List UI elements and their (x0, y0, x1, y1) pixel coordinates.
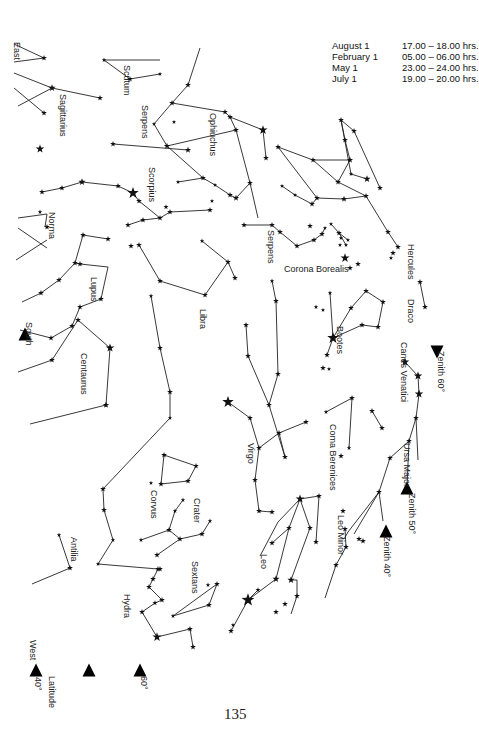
stars (36, 55, 428, 649)
label-sagittarius: Sagittarius (58, 94, 68, 137)
star-icon (185, 478, 191, 483)
constellation-line-hydra-lower (142, 569, 193, 647)
legend-row: July 1 19.00 – 20.00 hrs. (332, 73, 479, 84)
constellation-line-ophiuchus (167, 130, 236, 146)
star-icon (59, 185, 65, 190)
legend-row: February 1 05.00 – 06.00 hrs. (332, 51, 479, 62)
star-icon (324, 352, 330, 357)
label-hercules: Hercules (406, 244, 416, 280)
star-icon (150, 576, 156, 581)
legend-date: February 1 (332, 51, 402, 62)
star-icon (347, 446, 352, 450)
constellation-line-leo (272, 528, 289, 543)
star-icon (385, 229, 391, 234)
label-zenith-60: Zenith 60° (436, 351, 446, 392)
legend-time: 19.00 – 20.00 hrs. (402, 73, 479, 84)
star-icon (78, 178, 85, 185)
constellation-line-leo (260, 499, 300, 556)
star-icon (282, 601, 288, 606)
west-40-marker-icon (30, 664, 43, 677)
star-icon (338, 243, 342, 247)
star-icon (320, 365, 326, 370)
label-virgo: Virgo (246, 443, 256, 464)
label-latitude: Latitude (47, 676, 57, 708)
constellation-line-virgo-upper (272, 281, 278, 374)
star-icon (139, 609, 145, 614)
star-icon (67, 565, 73, 570)
star-icon (355, 261, 361, 266)
legend-row: May 1 23.00 – 24.00 hrs. (332, 62, 479, 73)
label-bootes: Bootes (335, 326, 345, 354)
label-east: East (12, 42, 22, 60)
constellation-line-leo (231, 600, 248, 631)
constellation-line-virgo-upper (246, 325, 278, 405)
star-icon (269, 509, 275, 514)
star-icon (307, 223, 313, 228)
star-icon (97, 95, 103, 100)
constellation-line-ursa-major (354, 492, 379, 534)
star-icon (48, 335, 54, 340)
label-leo: Leo (259, 554, 269, 569)
constellation-line-norma-lupus (75, 235, 108, 263)
constellation-line-hercules (282, 186, 317, 204)
star-icon (38, 210, 43, 214)
star-icon (227, 192, 233, 197)
star-icon (303, 419, 309, 424)
star-icon (115, 183, 121, 188)
constellation-line-ophiuchus (178, 178, 203, 182)
star-icon (369, 408, 375, 413)
constellation-line-serpens-caput (244, 225, 325, 246)
star-icon (321, 308, 325, 312)
star-icon (296, 495, 305, 503)
star-icon (48, 84, 55, 91)
constellation-line-scorpius (42, 182, 210, 218)
star-icon (110, 141, 116, 146)
star-icon (273, 609, 279, 614)
star-icon (139, 538, 144, 542)
star-icon (77, 304, 83, 309)
star-icon (231, 623, 235, 627)
star-icon (247, 415, 253, 420)
star-icon (210, 199, 214, 203)
label-zenith-50: Zenith 50° (407, 493, 417, 534)
star-icon (199, 531, 205, 536)
constellation-line-ophiuchus (230, 117, 250, 183)
star-icon (38, 290, 44, 295)
star-icon (207, 207, 213, 212)
star-icon (103, 402, 109, 407)
star-icon (185, 147, 191, 153)
star-icon (136, 242, 142, 247)
star-icon (36, 145, 45, 153)
legend-time: 23.00 – 24.00 hrs. (402, 62, 479, 73)
constellation-line-libra (139, 245, 235, 295)
constellation-line-crater (157, 539, 180, 555)
star-icon (125, 222, 131, 227)
constellation-line-serpens-caput (250, 183, 258, 218)
star-icon (379, 425, 385, 430)
star-icon (140, 217, 146, 222)
label-libra: Libra (198, 309, 208, 329)
star-icon (128, 243, 134, 248)
star-icon (363, 193, 369, 198)
star-icon (172, 120, 176, 124)
star-icon (185, 82, 191, 87)
label-60: 60° (139, 676, 149, 690)
star-icon (157, 278, 163, 283)
star-icon (349, 172, 353, 176)
label-antilia: Antilia (69, 537, 79, 562)
star-icon (49, 357, 55, 362)
star-icon (190, 644, 196, 649)
star-icon (338, 453, 344, 458)
label-ophiuchus: Ophiuchus (208, 113, 218, 156)
star-icon (105, 236, 111, 241)
label-corona-borealis: Corona Borealis (284, 264, 349, 274)
latitude-60-marker-icon (134, 664, 147, 677)
constellation-line-centaurus (30, 405, 106, 424)
star-icon (176, 180, 180, 184)
star-icon (377, 185, 383, 190)
constellation-line-norma-lupus (16, 240, 47, 260)
star-icon (333, 562, 339, 567)
star-icon (313, 539, 319, 544)
label-crater: Crater (192, 498, 202, 523)
star-icon (422, 304, 428, 309)
